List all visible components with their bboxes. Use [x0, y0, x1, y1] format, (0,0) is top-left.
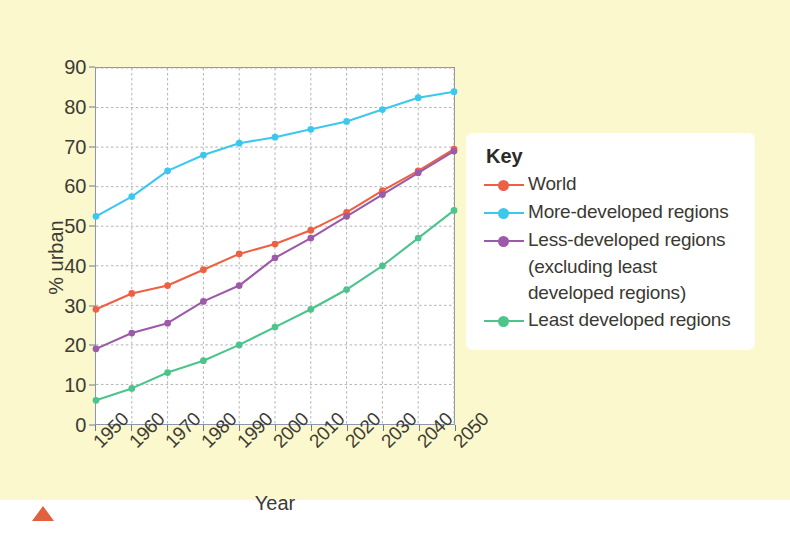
y-axis-tick-label: 70 — [40, 135, 86, 158]
legend-color-swatch — [484, 200, 524, 226]
data-series-group — [96, 68, 454, 424]
data-point-marker — [128, 385, 135, 392]
legend-item: Least developed regions — [484, 307, 741, 334]
data-point-marker — [379, 262, 386, 269]
y-axis-tick-mark — [89, 385, 95, 386]
data-point-marker — [343, 213, 350, 220]
data-point-marker — [236, 282, 243, 289]
y-axis-tick-label: 40 — [40, 254, 86, 277]
data-point-marker — [415, 94, 422, 101]
data-point-marker — [307, 235, 314, 242]
legend-panel: Key WorldMore-developed regionsLess-deve… — [466, 133, 755, 350]
y-axis-tick-label: 0 — [40, 414, 86, 437]
data-point-marker — [164, 282, 171, 289]
data-point-marker — [307, 126, 314, 133]
series-line — [96, 92, 454, 217]
data-point-marker — [307, 306, 314, 313]
data-point-marker — [236, 251, 243, 258]
legend-color-swatch — [484, 308, 524, 334]
legend-items: WorldMore-developed regionsLess-develope… — [484, 171, 741, 334]
data-point-marker — [451, 207, 458, 214]
y-axis-tick-mark — [89, 305, 95, 306]
y-axis-tick-mark — [89, 186, 95, 187]
data-point-marker — [236, 342, 243, 349]
data-point-marker — [415, 235, 422, 242]
data-point-marker — [164, 167, 171, 174]
y-axis-tick-mark — [89, 265, 95, 266]
data-point-marker — [415, 169, 422, 176]
y-axis-tick-mark — [89, 146, 95, 147]
data-point-marker — [343, 118, 350, 125]
data-point-marker — [128, 193, 135, 200]
legend-item: More-developed regions — [484, 199, 741, 226]
data-point-marker — [164, 320, 171, 327]
data-point-marker — [93, 345, 100, 352]
y-axis-tick-label: 90 — [40, 56, 86, 79]
data-point-marker — [128, 330, 135, 337]
x-axis-label: Year — [95, 492, 455, 515]
y-axis-tick-label: 50 — [40, 215, 86, 238]
data-point-marker — [93, 397, 100, 404]
figure-canvas: % urban Year Key WorldMore-developed reg… — [0, 0, 790, 500]
legend-color-swatch — [484, 228, 524, 254]
legend-item: Less-developed regions — [484, 227, 741, 254]
data-point-marker — [272, 254, 279, 261]
series-line — [96, 210, 454, 400]
data-point-marker — [93, 213, 100, 220]
data-point-marker — [164, 369, 171, 376]
data-point-marker — [272, 134, 279, 141]
y-axis-tick-label: 20 — [40, 334, 86, 357]
legend-title: Key — [484, 145, 741, 168]
legend-item: World — [484, 171, 741, 198]
data-point-marker — [379, 106, 386, 113]
y-axis-tick-mark — [89, 345, 95, 346]
legend-item-label: World — [528, 171, 576, 197]
data-point-marker — [272, 324, 279, 331]
legend-color-swatch — [484, 172, 524, 198]
data-point-marker — [451, 148, 458, 155]
triangle-marker-icon — [32, 506, 54, 521]
legend-item-label-continued: developed regions) — [484, 280, 741, 306]
y-axis-tick-mark — [89, 106, 95, 107]
data-point-marker — [307, 227, 314, 234]
data-point-marker — [236, 140, 243, 147]
y-axis-tick-mark — [89, 67, 95, 68]
data-point-marker — [200, 266, 207, 273]
plot-area — [95, 67, 455, 425]
data-point-marker — [93, 306, 100, 313]
y-axis-tick-label: 60 — [40, 175, 86, 198]
x-axis-tick-label: 2050 — [449, 408, 493, 452]
legend-item-label-continued: (excluding least — [484, 254, 741, 280]
data-point-marker — [128, 290, 135, 297]
legend-item-label: Least developed regions — [528, 307, 730, 333]
y-axis-tick-label: 30 — [40, 294, 86, 317]
data-point-marker — [200, 357, 207, 364]
y-axis-tick-label: 10 — [40, 374, 86, 397]
legend-item-label: Less-developed regions — [528, 227, 725, 253]
y-axis-tick-label: 80 — [40, 95, 86, 118]
series-line — [96, 149, 454, 309]
data-point-marker — [200, 298, 207, 305]
data-point-marker — [272, 241, 279, 248]
legend-item-label: More-developed regions — [528, 199, 729, 225]
data-point-marker — [379, 191, 386, 198]
data-point-marker — [451, 88, 458, 95]
data-point-marker — [200, 152, 207, 159]
y-axis-tick-mark — [89, 226, 95, 227]
data-point-marker — [343, 286, 350, 293]
